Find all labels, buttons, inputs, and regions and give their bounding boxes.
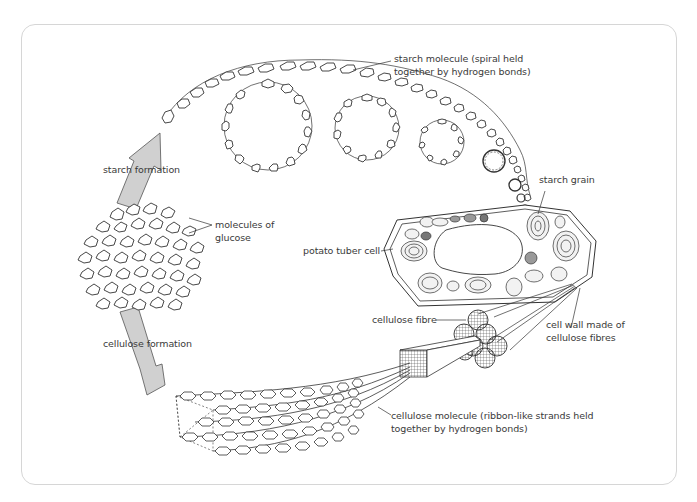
label-cellulose-molecule: cellulose molecule (ribbon-like strands … xyxy=(391,409,593,435)
cellulose-formation-arrow xyxy=(120,307,165,395)
label-line: together by hydrogen bonds) xyxy=(391,422,593,435)
label-cellulose-formation: cellulose formation xyxy=(103,337,192,350)
glucose-molecules-cluster xyxy=(78,203,204,310)
label-line: cellulose fibres xyxy=(546,331,625,344)
label-starch-grain: starch grain xyxy=(539,173,595,186)
label-starch-formation: starch formation xyxy=(103,163,180,176)
label-potato-tuber-cell: potato tuber cell xyxy=(303,244,380,257)
label-line: starch molecule (spiral held xyxy=(394,52,531,65)
label-line: together by hydrogen bonds) xyxy=(394,65,531,78)
label-line: glucose xyxy=(215,231,274,244)
starch-molecule-chain xyxy=(162,60,531,211)
label-line: cellulose molecule (ribbon-like strands … xyxy=(391,409,593,422)
label-cell-wall: cell wall made of cellulose fibres xyxy=(546,318,625,344)
label-line: molecules of xyxy=(215,218,274,231)
cellulose-molecule-strands xyxy=(176,363,410,455)
label-cellulose-fibre: cellulose fibre xyxy=(372,313,437,326)
label-starch-molecule: starch molecule (spiral held together by… xyxy=(394,52,531,78)
label-line: cell wall made of xyxy=(546,318,625,331)
label-molecules-of-glucose: molecules of glucose xyxy=(215,218,274,244)
